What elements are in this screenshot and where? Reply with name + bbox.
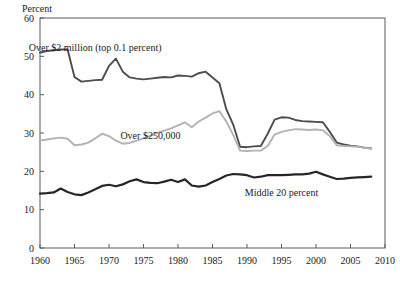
x-tick-label: 1990 <box>237 255 257 266</box>
series-label-2: Middle 20 percent <box>245 187 319 198</box>
x-tick-label: 1970 <box>99 255 119 266</box>
series-label-0: Over $2 million (top 0.1 percent) <box>29 42 162 54</box>
x-tick-label: 1980 <box>168 255 188 266</box>
x-tick-label: 1960 <box>30 255 50 266</box>
y-tick-label: 60 <box>24 13 34 24</box>
series-line-0 <box>40 49 371 148</box>
x-tick-label: 1965 <box>65 255 85 266</box>
x-axis-ticks: 1960196519701975198019851990199520002005… <box>30 244 395 266</box>
x-tick-label: 1995 <box>272 255 292 266</box>
y-tick-label: 30 <box>24 128 34 139</box>
x-tick-label: 2005 <box>341 255 361 266</box>
y-tick-label: 20 <box>24 166 34 177</box>
x-tick-label: 2000 <box>306 255 326 266</box>
x-tick-label: 2010 <box>375 255 395 266</box>
x-tick-label: 1975 <box>134 255 154 266</box>
y-tick-label: 40 <box>24 89 34 100</box>
series-lines <box>40 49 371 195</box>
x-tick-label: 1985 <box>203 255 223 266</box>
chart-figure: 0102030405060 19601965197019751980198519… <box>0 0 400 283</box>
y-tick-label: 10 <box>24 204 34 215</box>
series-line-2 <box>40 172 371 195</box>
series-label-1: Over $250,000 <box>120 130 180 141</box>
tax-rate-line-chart: 0102030405060 19601965197019751980198519… <box>0 0 400 283</box>
y-axis-title: Percent <box>22 3 52 14</box>
series-line-1 <box>40 111 371 151</box>
y-tick-label: 0 <box>29 243 34 254</box>
